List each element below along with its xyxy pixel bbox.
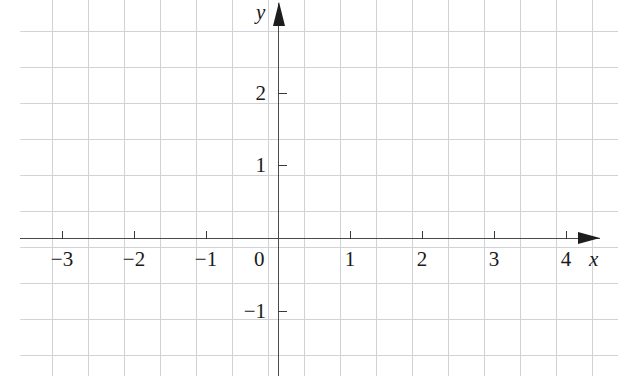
x-tick-label-minus-3: −3 <box>51 249 73 270</box>
coordinate-plane-figure: −3 −2 −1 1 2 3 4 2 1 −1 0 x y <box>0 0 618 376</box>
x-axis-tick <box>134 231 135 239</box>
x-tick-label-1: 1 <box>345 249 356 270</box>
y-axis-tick <box>278 311 287 312</box>
x-axis-tick <box>350 231 351 239</box>
x-axis-tick <box>494 231 495 239</box>
y-tick-label-minus-1: −1 <box>228 301 266 322</box>
x-tick-label-4: 4 <box>561 249 572 270</box>
x-axis-line <box>20 238 600 239</box>
y-tick-label-2: 2 <box>236 83 266 104</box>
x-axis-tick <box>566 231 567 239</box>
x-axis-tick <box>422 231 423 239</box>
left-margin-fade <box>0 0 24 376</box>
x-tick-label-minus-1: −1 <box>195 249 217 270</box>
y-axis-tick <box>278 165 287 166</box>
y-axis-line <box>278 3 279 376</box>
x-tick-label-3: 3 <box>489 249 500 270</box>
y-tick-label-1: 1 <box>236 155 266 176</box>
x-axis-arrowhead-icon <box>578 232 600 244</box>
x-axis-name-label: x <box>589 249 598 270</box>
x-axis-tick <box>206 231 207 239</box>
x-tick-label-2: 2 <box>417 249 428 270</box>
graph-paper-grid <box>20 0 618 376</box>
x-axis-tick <box>62 231 63 239</box>
y-axis-name-label: y <box>256 2 265 23</box>
x-tick-label-minus-2: −2 <box>123 249 145 270</box>
y-axis-tick <box>278 93 287 94</box>
y-axis-arrowhead-icon <box>273 2 285 26</box>
origin-label: 0 <box>254 249 265 270</box>
